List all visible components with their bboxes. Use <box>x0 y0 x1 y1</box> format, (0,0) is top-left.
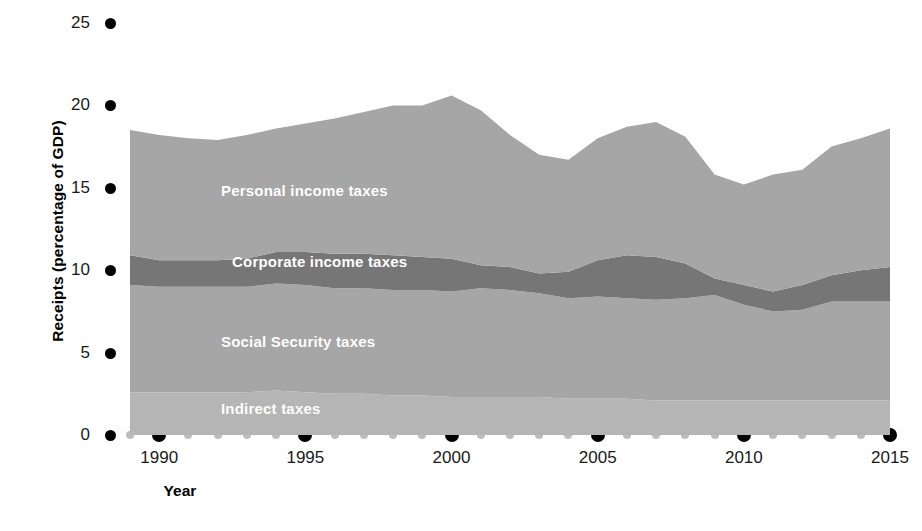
series-label-personal-income-taxes: Personal income taxes <box>221 182 388 199</box>
series-label-social-security-taxes: Social Security taxes <box>221 333 375 350</box>
stacked-area-plot <box>0 0 922 531</box>
series-label-indirect-taxes: Indirect taxes <box>221 400 321 417</box>
figure-area-chart: Receipts (percentage of GDP) Year 252015… <box>0 0 922 531</box>
series-label-corporate-income-taxes: Corporate income taxes <box>232 253 407 270</box>
